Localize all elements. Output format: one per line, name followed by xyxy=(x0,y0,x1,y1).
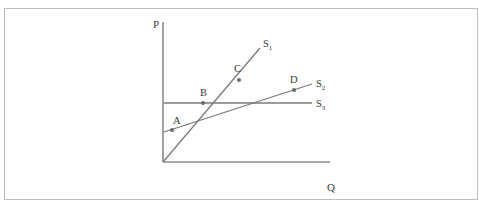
plot-canvas: P Q A B C D S1 S2 S3 xyxy=(0,0,485,212)
data-point-b xyxy=(201,101,205,105)
point-label-c: C xyxy=(234,63,241,74)
point-label-a: A xyxy=(173,115,181,126)
supply-curves-figure: P Q A B C D S1 S2 S3 xyxy=(0,0,485,212)
data-point-c xyxy=(237,78,241,82)
y-axis-label: P xyxy=(153,18,159,30)
curve-label-s3-subscript: 3 xyxy=(322,104,326,112)
point-label-b: B xyxy=(200,87,207,98)
curve-label-s3: S3 xyxy=(316,98,326,112)
curve-label-s1: S1 xyxy=(263,38,273,52)
point-label-d: D xyxy=(290,74,298,85)
x-axis-label: Q xyxy=(327,181,335,193)
curve-label-s1-subscript: 1 xyxy=(269,44,273,52)
curve-label-s2-subscript: 2 xyxy=(322,84,326,92)
data-point-d xyxy=(292,88,296,92)
data-point-a xyxy=(170,128,174,132)
curve-s2 xyxy=(164,84,312,132)
curve-label-s2: S2 xyxy=(316,78,326,92)
